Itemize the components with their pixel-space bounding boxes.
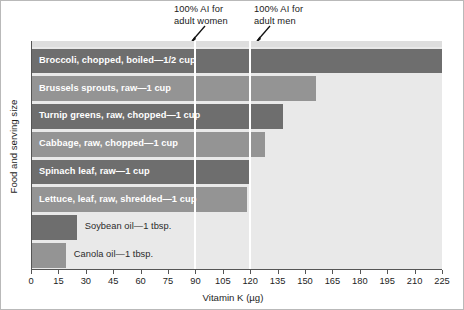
bar: [31, 243, 66, 268]
x-tick-label: 90: [190, 276, 200, 286]
x-axis-title: Vitamin K (µg): [1, 292, 464, 303]
reference-line: [249, 41, 251, 269]
bar-label: Canola oil—1 tbsp.: [74, 250, 153, 259]
plot-top-strip: [31, 41, 442, 47]
x-tick: [360, 270, 361, 274]
x-tick-label: 45: [108, 276, 118, 286]
annotation-ai-adult-men: 100% AI for adult men: [254, 4, 303, 27]
bar-label: Cabbage, raw, chopped—1 cup: [39, 139, 178, 148]
x-tick: [141, 270, 142, 274]
x-tick: [332, 270, 333, 274]
plot-area: Broccoli, chopped, boiled—1/2 cupBrussel…: [31, 41, 442, 269]
x-tick: [86, 270, 87, 274]
bar-label: Turnip greens, raw, chopped—1 cup: [39, 111, 200, 120]
x-tick-label: 105: [215, 276, 231, 286]
x-tick-label: 120: [242, 276, 258, 286]
x-tick: [387, 270, 388, 274]
x-tick: [250, 270, 251, 274]
vitamin-k-bar-chart: 100% AI for adult women 100% AI for adul…: [0, 0, 464, 310]
x-tick-label: 165: [325, 276, 341, 286]
x-tick: [223, 270, 224, 274]
y-axis-title: Food and serving size: [8, 72, 19, 222]
bar-label: Soybean oil—1 tbsp.: [85, 222, 172, 231]
x-tick: [305, 270, 306, 274]
x-tick-label: 30: [81, 276, 91, 286]
x-tick-label: 180: [352, 276, 368, 286]
x-tick-label: 195: [379, 276, 395, 286]
x-tick: [58, 270, 59, 274]
x-tick: [442, 270, 443, 274]
x-tick: [113, 270, 114, 274]
x-tick-label: 210: [407, 276, 423, 286]
x-tick: [168, 270, 169, 274]
annotation-ai-adult-women: 100% AI for adult women: [174, 4, 228, 27]
x-tick-label: 0: [28, 276, 33, 286]
x-tick-label: 150: [297, 276, 313, 286]
x-tick-label: 135: [270, 276, 286, 286]
x-tick: [415, 270, 416, 274]
x-axis-line: [31, 269, 442, 270]
bar-label: Brussels sprouts, raw—1 cup: [39, 84, 171, 93]
x-tick: [31, 270, 32, 274]
y-axis-line: [31, 41, 32, 269]
reference-line: [194, 41, 196, 269]
bar: [31, 215, 77, 240]
bar-label: Lettuce, leaf, raw, shredded—1 cup: [39, 195, 196, 204]
x-tick-label: 60: [135, 276, 145, 286]
x-tick-label: 225: [434, 276, 450, 286]
bar-label: Broccoli, chopped, boiled—1/2 cup: [39, 56, 196, 65]
bar-label: Spinach leaf, raw—1 cup: [39, 167, 150, 176]
x-tick: [195, 270, 196, 274]
x-tick-label: 75: [163, 276, 173, 286]
x-tick-label: 15: [53, 276, 63, 286]
x-tick: [278, 270, 279, 274]
